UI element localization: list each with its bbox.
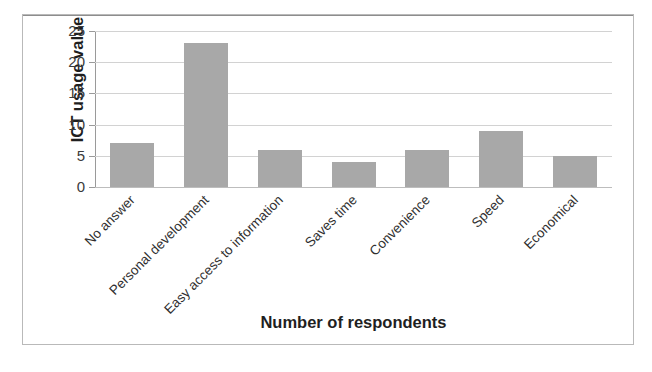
bar <box>479 131 523 187</box>
bar-chart: ICT usage value 0510152025 No answerPers… <box>0 0 652 372</box>
gridline-5 <box>95 156 612 157</box>
bar <box>258 150 302 187</box>
y-tick-label-5: 5 <box>51 148 85 163</box>
bar <box>110 143 154 187</box>
plot-area <box>95 31 612 187</box>
y-tick-label-0: 0 <box>51 179 85 194</box>
y-tick-label-15: 15 <box>51 85 85 100</box>
y-tick-label-10: 10 <box>51 117 85 132</box>
gridline-20 <box>95 62 612 63</box>
x-axis-label-economical: Economical <box>522 193 581 252</box>
x-axis-label-convenience: Convenience <box>368 193 433 258</box>
bar <box>553 156 597 187</box>
x-axis-label-saves-time: Saves time <box>302 193 359 250</box>
bar <box>184 43 228 187</box>
y-axis-title-container: ICT usage value <box>26 30 50 190</box>
y-tick-label-20: 20 <box>51 54 85 69</box>
bar <box>405 150 449 187</box>
bar <box>332 162 376 187</box>
x-axis-label-no-answer: No answer <box>82 193 137 248</box>
gridline-0 <box>95 187 612 188</box>
x-axis-label-speed: Speed <box>470 193 507 230</box>
x-axis-title: Number of respondents <box>95 313 612 332</box>
y-tick-label-25: 25 <box>51 23 85 38</box>
gridline-10 <box>95 125 612 126</box>
gridline-15 <box>95 93 612 94</box>
gridline-25 <box>95 31 612 32</box>
